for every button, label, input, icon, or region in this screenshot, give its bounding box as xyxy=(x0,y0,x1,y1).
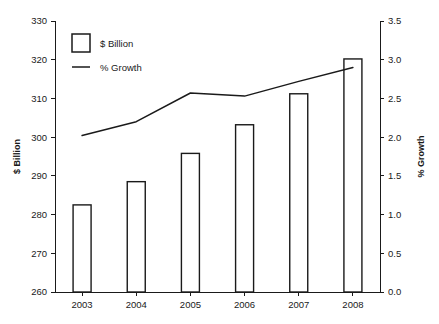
y-axis-right-tick-label: 1.0 xyxy=(388,209,401,220)
y-axis-right-tick-label: 2.5 xyxy=(388,93,401,104)
bar-2003 xyxy=(73,205,91,292)
legend-label-line: % Growth xyxy=(100,62,142,73)
bar-2006 xyxy=(236,125,254,292)
y-axis-left-tick-label: 280 xyxy=(31,209,47,220)
x-axis-tick-label-2004: 2004 xyxy=(126,299,147,310)
y-axis-left-tick-label: 320 xyxy=(31,54,47,65)
legend-label-bar: $ Billion xyxy=(100,38,133,49)
x-axis-tick-label-2008: 2008 xyxy=(342,299,363,310)
y-axis-left-tick-label: 260 xyxy=(31,286,47,297)
y-axis-left-tick-label: 330 xyxy=(31,15,47,26)
bar-2004 xyxy=(127,182,145,292)
bar-2007 xyxy=(290,94,308,292)
y-axis-right-tick-label: 1.5 xyxy=(388,170,401,181)
y-axis-right-title: % Growth xyxy=(416,136,426,178)
y-axis-left-tick-label: 310 xyxy=(31,93,47,104)
bar-2008 xyxy=(344,59,362,292)
y-axis-right-tick-label: 0.5 xyxy=(388,248,401,259)
x-axis-tick-label-2007: 2007 xyxy=(288,299,309,310)
growth-line-series xyxy=(82,67,353,135)
x-axis-tick-label-2005: 2005 xyxy=(180,299,201,310)
y-axis-left-tick-label: 270 xyxy=(31,248,47,259)
x-axis-tick-label-2003: 2003 xyxy=(72,299,93,310)
y-axis-right-tick-label: 3.5 xyxy=(388,15,401,26)
chart-plot: 2602702802903003103203300.00.51.01.52.02… xyxy=(0,0,439,324)
bar-2005 xyxy=(181,153,199,292)
y-axis-right-tick-label: 2.0 xyxy=(388,132,401,143)
legend-swatch-bar-icon xyxy=(72,34,90,52)
y-axis-left-tick-label: 290 xyxy=(31,170,47,181)
y-axis-left-tick-label: 300 xyxy=(31,132,47,143)
y-axis-right-tick-label: 3.0 xyxy=(388,54,401,65)
x-axis-tick-label-2006: 2006 xyxy=(234,299,255,310)
y-axis-right-tick-label: 0.0 xyxy=(388,286,401,297)
y-axis-left-title: $ Billion xyxy=(12,139,22,174)
chart-container: 2602702802903003103203300.00.51.01.52.02… xyxy=(0,0,439,324)
